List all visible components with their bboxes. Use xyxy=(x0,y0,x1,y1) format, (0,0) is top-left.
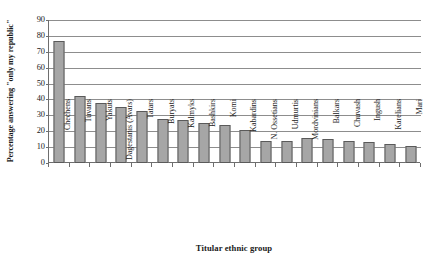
y-axis-tick-label: 80 xyxy=(19,32,45,40)
x-axis-tick-mark xyxy=(296,163,297,167)
y-axis-tick-label: 30 xyxy=(19,111,45,119)
x-axis-tick-label: Chuvash xyxy=(352,99,364,169)
y-axis-tick-label: 60 xyxy=(19,63,45,71)
y-axis-tick-label: 0 xyxy=(19,159,45,167)
y-axis-tick-label: 50 xyxy=(19,79,45,87)
x-axis-tick-mark xyxy=(337,163,338,167)
x-axis-tick-label: Tatars xyxy=(145,99,157,169)
x-axis-tick-mark xyxy=(255,163,256,167)
y-axis-tick-label: 20 xyxy=(19,127,45,135)
x-axis-tick-mark xyxy=(193,163,194,167)
x-axis-tick-mark xyxy=(379,163,380,167)
x-axis-tick-label: Buryats xyxy=(166,99,178,169)
x-axis-tick-label: Mari xyxy=(414,99,426,169)
x-axis-tick-mark xyxy=(110,163,111,167)
x-axis-tick-mark xyxy=(420,163,421,167)
x-axis-tick-label: Bashkirs xyxy=(207,99,219,169)
x-axis-tick-label: Komi xyxy=(228,99,240,169)
x-axis-tick-mark xyxy=(317,163,318,167)
x-axis-tick-label: Balkars xyxy=(331,99,343,169)
y-axis-tick-label: 40 xyxy=(19,95,45,103)
x-axis-tick-label: Chechens xyxy=(62,99,74,169)
x-axis-tick-mark xyxy=(48,163,49,167)
x-axis-tick-mark xyxy=(399,163,400,167)
x-axis-tick-label: Kabardins xyxy=(248,99,260,169)
x-axis-tick-mark xyxy=(89,163,90,167)
x-axis-tick-label: N. Ossetians xyxy=(269,99,281,169)
x-axis-tick-mark xyxy=(275,163,276,167)
y-axis-tick-label: 10 xyxy=(19,143,45,151)
x-axis-tick-mark xyxy=(213,163,214,167)
x-axis-tick-label: Tuvans xyxy=(83,99,95,169)
x-axis-tick-label: Udmurtis xyxy=(290,99,302,169)
x-axis-tick-label: Mordvinians xyxy=(310,99,322,169)
x-axis-tick-mark xyxy=(151,163,152,167)
bar-chart-figure: Percentage answering "only my republic" … xyxy=(0,0,426,277)
x-axis-tick-mark xyxy=(131,163,132,167)
x-axis-tick-label: Dagestanis (Avars) xyxy=(124,99,136,169)
x-axis-tick-mark xyxy=(234,163,235,167)
x-axis: ChechensTuvansYakutsDagestanis (Avars)Ta… xyxy=(48,163,420,239)
y-axis-tick-label: 90 xyxy=(19,16,45,24)
x-axis-tick-mark xyxy=(172,163,173,167)
x-axis-tick-label: Ingush xyxy=(372,99,384,169)
y-axis-title: Percentage answering "only my republic" xyxy=(3,6,19,176)
x-axis-tick-label: Yakuts xyxy=(104,99,116,169)
x-axis-title: Titular ethnic group xyxy=(48,243,420,253)
x-axis-tick-mark xyxy=(358,163,359,167)
x-axis-tick-mark xyxy=(69,163,70,167)
y-axis-tick-label: 70 xyxy=(19,48,45,56)
x-axis-tick-label: Karelians xyxy=(393,99,405,169)
x-axis-tick-label: Kalmyks xyxy=(186,99,198,169)
